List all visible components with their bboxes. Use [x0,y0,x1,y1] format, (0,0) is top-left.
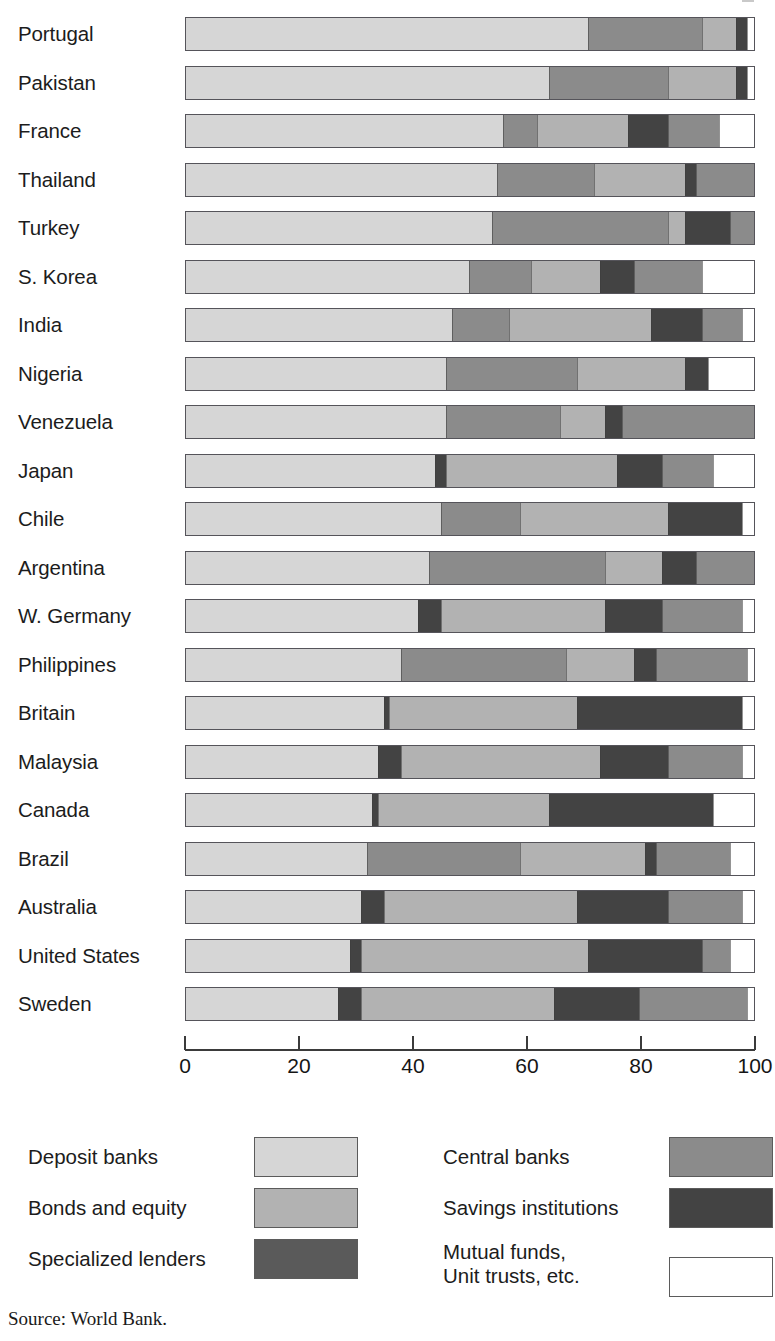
bar-segment-central-banks [702,940,731,972]
bar-segment-mutual-funds [742,891,754,923]
bar-segment-central-banks [702,309,743,341]
country-label: Philippines [18,653,116,677]
stacked-bar [185,502,755,536]
stacked-bar [185,66,755,100]
country-label: Britain [18,701,75,725]
bar-segment-mutual-funds [747,67,754,99]
bar-segment-savings-institutions [378,746,402,778]
bar-segment-savings-institutions [549,794,715,826]
bar-segment-deposit-banks [186,891,362,923]
bar-segment-mutual-funds [742,309,754,341]
bar-row: Argentina [0,544,775,593]
bar-segment-deposit-banks [186,600,419,632]
bar-row: S. Korea [0,253,775,302]
country-label: Japan [18,459,73,483]
bar-row: Australia [0,883,775,932]
stacked-bar [185,648,755,682]
bar-row: United States [0,932,775,981]
bar-row: Philippines [0,641,775,690]
bar-segment-central-banks [656,843,731,875]
x-axis-tick [412,1036,414,1050]
legend-swatch-specialized-lenders [254,1239,358,1279]
bar-segment-savings-institutions [634,649,658,681]
bar-segment-savings-institutions [361,891,385,923]
bar-segment-bonds-and-equity [668,212,686,244]
source-note: Source: World Bank. [8,1308,167,1330]
bar-segment-savings-institutions [600,746,669,778]
country-label: Canada [18,798,89,822]
stacked-bar [185,842,755,876]
bar-segment-deposit-banks [186,358,447,390]
bar-segment-mutual-funds [742,503,754,535]
x-axis-tick-label: 40 [401,1054,424,1078]
bar-segment-central-banks [668,891,743,923]
country-label: Venezuela [18,410,113,434]
stacked-bar [185,114,755,148]
bar-segment-mutual-funds [747,649,754,681]
stacked-bar-chart-figure: PortugalPakistanFranceThailandTurkeyS. K… [0,0,775,1341]
bar-segment-bonds-and-equity [378,794,549,826]
bar-segment-central-banks [401,649,567,681]
country-label: Australia [18,895,97,919]
x-axis-tick-label: 100 [737,1054,772,1078]
bar-segment-deposit-banks [186,988,339,1020]
x-axis-tick-label: 20 [287,1054,310,1078]
legend-label: Mutual funds, Unit trusts, etc. [443,1240,580,1288]
bar-row: W. Germany [0,592,775,641]
x-axis-tick-labels: 020406080100 [185,1054,755,1084]
bar-row: France [0,107,775,156]
country-label: W. Germany [18,604,131,628]
x-axis-tick [184,1036,186,1050]
bar-segment-mutual-funds [747,18,754,50]
stacked-bar [185,696,755,730]
bar-segment-bonds-and-equity [389,697,577,729]
stacked-bar [185,17,755,51]
bar-segment-savings-institutions [338,988,362,1020]
legend-column-left: Deposit banksBonds and equitySpecialized… [28,1131,358,1284]
bar-segment-deposit-banks [186,455,436,487]
country-label: Portugal [18,22,94,46]
bar-segment-bonds-and-equity [509,309,652,341]
x-axis-tick [298,1036,300,1050]
bar-segment-bonds-and-equity [441,600,607,632]
bar-segment-savings-institutions [577,891,669,923]
bar-segment-savings-institutions [628,115,669,147]
legend-label: Bonds and equity [28,1196,186,1220]
bar-row: Britain [0,689,775,738]
bar-segment-bonds-and-equity [560,406,606,438]
bar-row: Turkey [0,204,775,253]
x-axis-tick [640,1036,642,1050]
bar-segment-deposit-banks [186,794,373,826]
chart-plot-area: PortugalPakistanFranceThailandTurkeyS. K… [0,10,775,1029]
stacked-bar [185,260,755,294]
legend-item: Specialized lenders [28,1233,358,1284]
bar-segment-bonds-and-equity [531,261,600,293]
country-label: Sweden [18,992,91,1016]
stacked-bar [185,211,755,245]
bar-segment-central-banks [662,455,714,487]
stacked-bar [185,987,755,1021]
x-axis [185,1036,755,1050]
bar-row: Sweden [0,980,775,1029]
legend-label: Deposit banks [28,1145,158,1169]
legend-swatch-savings-institutions [669,1188,773,1228]
legend-label: Specialized lenders [28,1247,206,1271]
bar-segment-savings-institutions [617,455,663,487]
bar-segment-bonds-and-equity [384,891,578,923]
country-label: Chile [18,507,64,531]
bar-segment-central-banks [549,67,669,99]
bar-segment-central-banks [446,358,578,390]
bar-segment-mutual-funds [719,115,754,147]
bar-segment-savings-institutions [668,503,743,535]
bar-segment-central-banks [452,309,510,341]
country-label: Turkey [18,216,79,240]
x-axis-tick [754,1036,756,1050]
bar-segment-bonds-and-equity [668,67,737,99]
bar-segment-central-banks [497,164,595,196]
bar-segment-savings-institutions [685,212,731,244]
country-label: United States [18,944,140,968]
stacked-bar [185,308,755,342]
legend-item: Deposit banks [28,1131,358,1182]
bar-segment-deposit-banks [186,309,453,341]
bar-segment-central-banks [367,843,521,875]
